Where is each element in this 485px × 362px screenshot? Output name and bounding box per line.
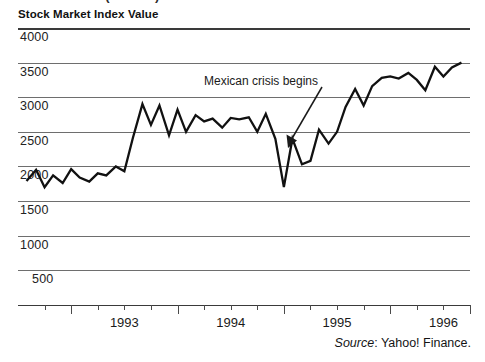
x-tick-1994.25 — [204, 305, 205, 310]
source-note: Source: Yahoo! Finance. — [335, 336, 471, 350]
x-tick-1996.75 — [470, 305, 471, 314]
annotation-arrow-icon — [275, 82, 335, 157]
x-tick-1994.75 — [257, 305, 258, 310]
x-tick-1995 — [284, 305, 285, 314]
x-tick-1993.5 — [124, 305, 125, 310]
x-tick-label-1996: 1996 — [429, 315, 458, 330]
x-tick-1996 — [390, 305, 391, 314]
x-axis — [18, 305, 470, 307]
chart-plot-area: 4000350030002500200015001000500 — [18, 28, 470, 305]
source-word: Source — [335, 336, 375, 350]
x-tick-1996.5 — [443, 305, 444, 310]
clipped-header-text: Stock Market (Mexico) — [18, 0, 159, 3]
x-tick-label-1993: 1993 — [110, 315, 139, 330]
x-tick-label-1994: 1994 — [216, 315, 245, 330]
x-tick-1995.25 — [310, 305, 311, 310]
data-series-line — [18, 28, 470, 305]
x-tick-1993.75 — [151, 305, 152, 310]
page-title: Stock Market Index Value — [18, 8, 158, 20]
x-tick-1996.25 — [417, 305, 418, 310]
x-tick-1994.5 — [231, 305, 232, 310]
x-tick-1995.75 — [364, 305, 365, 310]
x-tick-1993.25 — [98, 305, 99, 310]
x-tick-1992.75 — [45, 305, 46, 310]
x-tick-1993 — [71, 305, 72, 314]
x-tick-1995.5 — [337, 305, 338, 310]
x-tick-1994 — [178, 305, 179, 314]
source-rest: : Yahoo! Finance. — [374, 336, 471, 350]
x-tick-label-1995: 1995 — [323, 315, 352, 330]
